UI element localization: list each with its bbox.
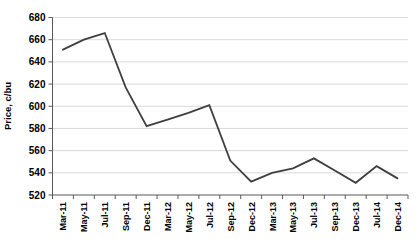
y-tick-label: 520 xyxy=(29,190,46,201)
x-tick-label: Sep-11 xyxy=(121,202,131,231)
price-line-chart: Mar-11May-11Jul-11Sep-11Dec-11Mar-12May-… xyxy=(0,0,420,250)
y-tick-label: 560 xyxy=(29,145,46,156)
x-tick-label: May-12 xyxy=(184,202,194,233)
x-tick-label: Dec-14 xyxy=(393,202,403,232)
y-axis-labels: 520540560580600620640660680 xyxy=(29,12,46,201)
y-tick-label: 600 xyxy=(29,101,46,112)
x-tick-label: Dec-11 xyxy=(142,202,152,231)
line-chart-canvas: Mar-11May-11Jul-11Sep-11Dec-11Mar-12May-… xyxy=(0,0,420,250)
x-tick-label: Mar-12 xyxy=(163,202,173,231)
price-series-line xyxy=(63,33,398,183)
x-tick-label: May-13 xyxy=(288,202,298,233)
y-axis-title: Price, c/bu xyxy=(2,82,13,130)
x-tick-label: Sep-12 xyxy=(226,202,236,232)
y-tick-label: 660 xyxy=(29,34,46,45)
axes xyxy=(49,18,409,200)
x-tick-label: Jul-14 xyxy=(372,202,382,228)
y-tick-label: 680 xyxy=(29,12,46,23)
x-tick-label: Mar-13 xyxy=(268,202,278,231)
y-tick-label: 580 xyxy=(29,123,46,134)
x-tick-label: Jul-12 xyxy=(205,202,215,228)
x-tick-label: May-11 xyxy=(79,202,89,232)
y-tick-label: 640 xyxy=(29,56,46,67)
y-tick-label: 540 xyxy=(29,167,46,178)
x-tick-label: Sep-13 xyxy=(330,202,340,232)
y-tick-label: 620 xyxy=(29,79,46,90)
x-tick-label: Jul-11 xyxy=(100,202,110,228)
x-tick-label: Mar-11 xyxy=(58,202,68,231)
x-tick-label: Jul-13 xyxy=(309,202,319,228)
x-axis-labels: Mar-11May-11Jul-11Sep-11Dec-11Mar-12May-… xyxy=(58,202,403,233)
gridlines xyxy=(53,18,409,173)
x-tick-label: Dec-13 xyxy=(351,202,361,232)
x-tick-label: Dec-12 xyxy=(247,202,257,232)
